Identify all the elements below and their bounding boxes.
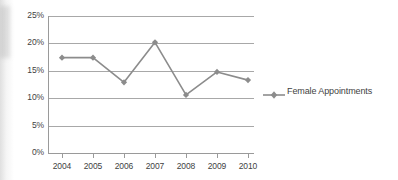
data-point-marker	[59, 55, 65, 61]
legend-marker-icon	[263, 86, 285, 96]
chart-container: 25% 20% 15% 10% 5% 0% 2004 2005 2006 200…	[0, 0, 398, 180]
legend: Female Appointments	[263, 86, 372, 96]
series-markers	[59, 39, 251, 98]
legend-label: Female Appointments	[287, 86, 372, 96]
data-point-marker	[245, 77, 251, 83]
series-line	[62, 42, 248, 95]
